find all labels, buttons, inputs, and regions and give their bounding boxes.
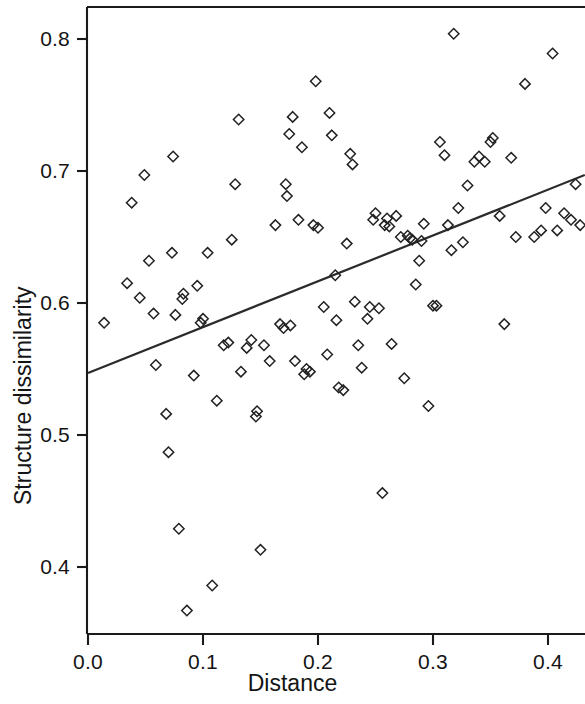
data-point bbox=[288, 112, 298, 122]
data-point bbox=[259, 340, 269, 350]
data-point bbox=[449, 29, 459, 39]
data-point bbox=[462, 180, 472, 190]
data-point bbox=[192, 281, 202, 291]
data-point bbox=[233, 114, 243, 124]
data-point bbox=[453, 203, 463, 213]
data-point bbox=[362, 314, 372, 324]
x-axis-title: Distance bbox=[0, 670, 585, 697]
y-tick-label: 0.8 bbox=[18, 27, 70, 51]
data-point bbox=[511, 232, 521, 242]
data-point bbox=[423, 401, 433, 411]
data-point bbox=[207, 580, 217, 590]
axis-ticks bbox=[77, 39, 548, 645]
data-point bbox=[342, 238, 352, 248]
data-point bbox=[357, 362, 367, 372]
plot-canvas bbox=[0, 0, 585, 704]
data-point bbox=[284, 129, 294, 139]
data-point bbox=[174, 524, 184, 534]
data-point bbox=[170, 310, 180, 320]
data-point bbox=[386, 339, 396, 349]
data-point bbox=[391, 211, 401, 221]
scatter-plot-figure: 0.40.50.60.70.8 0.00.10.20.30.4 Structur… bbox=[0, 0, 585, 704]
data-point bbox=[319, 302, 329, 312]
data-point bbox=[227, 234, 237, 244]
data-point bbox=[350, 296, 360, 306]
data-point bbox=[122, 278, 132, 288]
data-point bbox=[281, 179, 291, 189]
data-point bbox=[167, 248, 177, 258]
data-point bbox=[265, 356, 275, 366]
data-point bbox=[282, 191, 292, 201]
data-point bbox=[182, 605, 192, 615]
data-point bbox=[419, 219, 429, 229]
data-point bbox=[520, 79, 530, 89]
data-point bbox=[552, 225, 562, 235]
data-point bbox=[575, 220, 585, 230]
data-point bbox=[541, 203, 551, 213]
data-point bbox=[324, 108, 334, 118]
data-point bbox=[435, 137, 445, 147]
data-point bbox=[547, 48, 557, 58]
data-point bbox=[495, 211, 505, 221]
data-point bbox=[151, 360, 161, 370]
data-point bbox=[439, 150, 449, 160]
data-point bbox=[177, 294, 187, 304]
data-point bbox=[411, 279, 421, 289]
data-point bbox=[168, 151, 178, 161]
data-point bbox=[293, 215, 303, 225]
data-point bbox=[480, 157, 490, 167]
data-point bbox=[347, 159, 357, 169]
data-point bbox=[144, 256, 154, 266]
data-point bbox=[327, 130, 337, 140]
data-point bbox=[270, 220, 280, 230]
data-point bbox=[499, 319, 509, 329]
data-point bbox=[297, 142, 307, 152]
data-point bbox=[428, 300, 438, 310]
data-point bbox=[202, 248, 212, 258]
data-point bbox=[139, 170, 149, 180]
data-point-markers bbox=[99, 29, 585, 616]
data-point bbox=[148, 308, 158, 318]
data-point bbox=[135, 293, 145, 303]
data-point bbox=[163, 447, 173, 457]
plot-frame bbox=[87, 7, 585, 634]
data-point bbox=[345, 149, 355, 159]
data-point bbox=[127, 197, 137, 207]
y-axis-title: Structure dissimilarity bbox=[10, 286, 37, 505]
data-point bbox=[399, 373, 409, 383]
y-tick-label: 0.4 bbox=[18, 555, 70, 579]
data-point bbox=[290, 356, 300, 366]
data-point bbox=[311, 76, 321, 86]
data-point bbox=[236, 366, 246, 376]
data-point bbox=[255, 545, 265, 555]
data-point bbox=[353, 340, 363, 350]
data-point bbox=[178, 289, 188, 299]
regression-trendline bbox=[88, 175, 585, 373]
data-point bbox=[414, 256, 424, 266]
data-point bbox=[331, 315, 341, 325]
data-point bbox=[252, 406, 262, 416]
data-point bbox=[431, 300, 441, 310]
data-point bbox=[506, 153, 516, 163]
data-point bbox=[251, 411, 261, 421]
y-tick-label: 0.7 bbox=[18, 159, 70, 183]
data-point bbox=[212, 395, 222, 405]
data-point bbox=[189, 370, 199, 380]
data-point bbox=[365, 302, 375, 312]
data-point bbox=[99, 318, 109, 328]
data-point bbox=[230, 179, 240, 189]
data-point bbox=[458, 237, 468, 247]
data-point bbox=[377, 488, 387, 498]
data-point bbox=[446, 245, 456, 255]
data-point bbox=[374, 303, 384, 313]
data-point bbox=[161, 409, 171, 419]
data-point bbox=[322, 349, 332, 359]
